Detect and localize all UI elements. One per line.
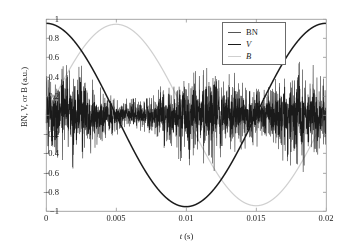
y-tick-label: 1 [55, 14, 59, 24]
legend-item-bn: BN [223, 26, 285, 38]
legend-label-bn: BN [246, 28, 258, 37]
y-tick-label: −0.8 [44, 187, 59, 197]
x-axis-label-unit: (s) [182, 231, 193, 241]
y-tick-label: 0.8 [48, 33, 59, 43]
x-tick-label: 0.02 [319, 213, 334, 223]
legend-swatch-v [228, 44, 241, 45]
legend-label-b: B [246, 52, 251, 61]
x-axis-label: t (s) [46, 231, 327, 241]
figure-container: BN, V, or B (a.u.) t (s) 10.80.60.40.20−… [0, 0, 348, 248]
y-tick-label: 0 [55, 110, 59, 120]
chart-legend: BN V B [222, 22, 286, 65]
x-tick-label: 0.01 [179, 213, 194, 223]
y-tick-label: −1 [50, 206, 59, 216]
y-tick-label: 0.4 [48, 72, 59, 82]
y-tick-label: −0.2 [44, 129, 59, 139]
x-tick-label: 0.005 [106, 213, 125, 223]
legend-item-b: B [223, 50, 285, 62]
y-tick-label: 0.6 [48, 52, 59, 62]
y-tick-label: −0.4 [44, 148, 59, 158]
x-tick-label: 0 [44, 213, 48, 223]
x-tick-label: 0.015 [246, 213, 265, 223]
legend-swatch-bn [228, 32, 241, 33]
y-tick-label: 0.2 [48, 91, 59, 101]
legend-swatch-b [228, 56, 241, 57]
legend-label-v: V [246, 40, 251, 49]
y-tick-label: −0.6 [44, 168, 59, 178]
legend-item-v: V [223, 38, 285, 50]
y-axis-label: BN, V, or B (a.u.) [19, 32, 29, 162]
